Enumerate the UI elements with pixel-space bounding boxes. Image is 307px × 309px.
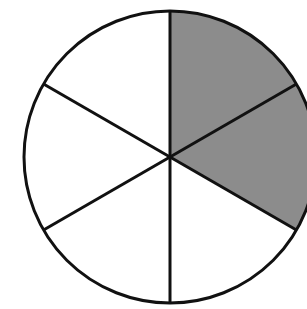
fraction-circle-diagram [0, 0, 307, 309]
